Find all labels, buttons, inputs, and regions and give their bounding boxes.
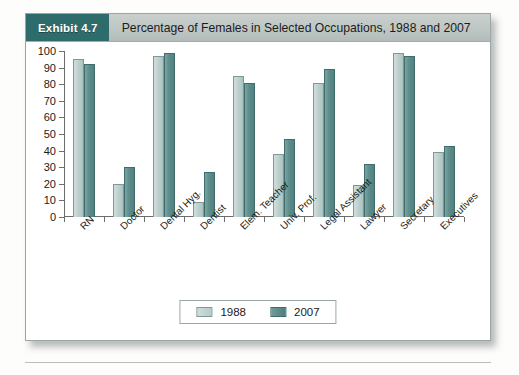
bar-2007 — [404, 56, 415, 217]
y-tick-label: 30 — [44, 161, 56, 173]
legend-item-2007: 2007 — [270, 306, 320, 318]
exhibit-header: Exhibit 4.7 Percentage of Females in Sel… — [26, 14, 490, 42]
y-tick-label: 10 — [44, 194, 56, 206]
bar-2007 — [244, 83, 255, 217]
page-divider — [25, 362, 491, 363]
x-tick — [264, 217, 265, 222]
y-tick — [59, 84, 64, 85]
legend-label: 2007 — [294, 306, 320, 318]
x-tick — [464, 217, 465, 222]
bar-1988 — [73, 59, 84, 217]
y-tick — [59, 167, 64, 168]
x-tick — [424, 217, 425, 222]
x-tick — [384, 217, 385, 222]
legend-swatch-1988 — [196, 307, 212, 317]
x-tick — [104, 217, 105, 222]
bar-1988 — [233, 76, 244, 217]
bar-1988 — [153, 56, 164, 217]
y-tick — [59, 117, 64, 118]
chart-legend: 19882007 — [179, 300, 336, 324]
exhibit-title: Percentage of Females in Selected Occupa… — [109, 14, 471, 41]
legend-item-1988: 1988 — [196, 306, 246, 318]
y-tick-label: 60 — [44, 111, 56, 123]
bar-1988 — [113, 184, 124, 217]
y-tick — [59, 68, 64, 69]
y-tick-label: 90 — [44, 62, 56, 74]
y-tick — [59, 184, 64, 185]
y-tick — [59, 200, 64, 201]
bar-2007 — [444, 146, 455, 217]
x-tick — [184, 217, 185, 222]
chart-body: 0102030405060708090100 RNDoctorDental Hy… — [26, 42, 490, 342]
exhibit-badge: Exhibit 4.7 — [26, 14, 109, 41]
y-tick-label: 20 — [44, 178, 56, 190]
y-tick — [59, 101, 64, 102]
y-tick — [59, 134, 64, 135]
y-tick-label: 100 — [38, 45, 56, 57]
plot-area: 0102030405060708090100 RNDoctorDental Hy… — [64, 51, 464, 217]
legend-label: 1988 — [220, 306, 246, 318]
y-tick-label: 40 — [44, 145, 56, 157]
x-tick — [224, 217, 225, 222]
legend-swatch-2007 — [270, 307, 286, 317]
y-axis-line — [64, 51, 65, 217]
bar-2007 — [284, 139, 295, 217]
bar-2007 — [324, 69, 335, 217]
x-tick — [304, 217, 305, 222]
x-tick — [144, 217, 145, 222]
y-tick-label: 70 — [44, 95, 56, 107]
y-tick-label: 80 — [44, 78, 56, 90]
y-tick-label: 0 — [50, 211, 56, 223]
y-tick-label: 50 — [44, 128, 56, 140]
exhibit-card: Exhibit 4.7 Percentage of Females in Sel… — [25, 13, 491, 341]
bar-1988 — [193, 202, 204, 217]
y-tick — [59, 151, 64, 152]
bar-2007 — [164, 53, 175, 217]
bar-2007 — [84, 64, 95, 217]
x-tick — [64, 217, 65, 222]
bar-1988 — [393, 53, 404, 217]
y-tick — [59, 51, 64, 52]
bar-1988 — [433, 152, 444, 217]
x-tick — [344, 217, 345, 222]
